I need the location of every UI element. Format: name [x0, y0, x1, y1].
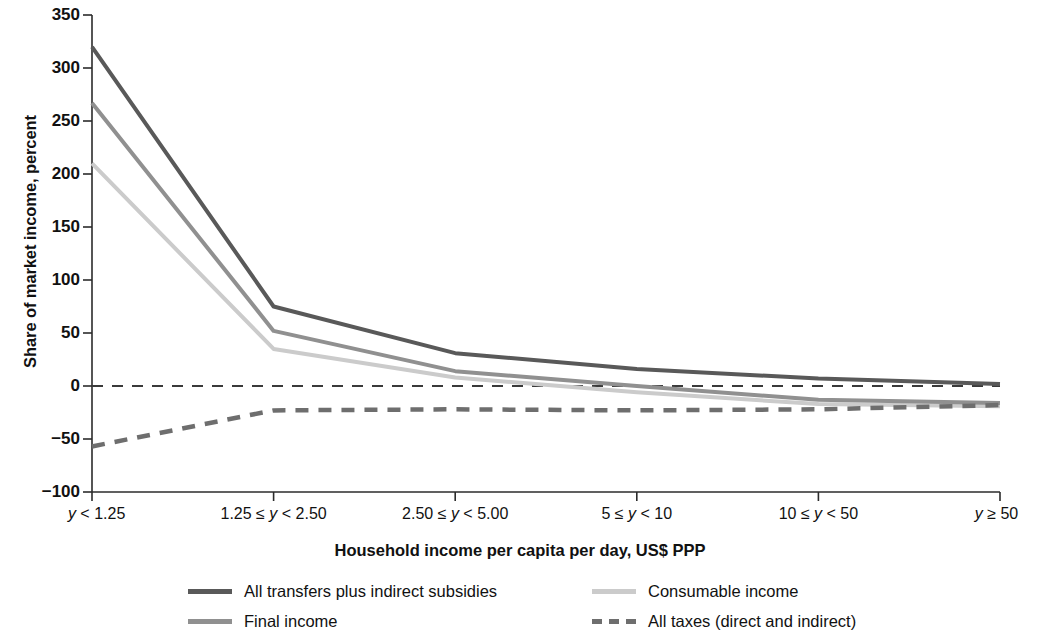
y-tick-label: 350: [18, 6, 80, 23]
x-tick-label: 2.50 ≤ y < 5.00: [402, 505, 508, 523]
y-tick-label: 150: [18, 218, 80, 235]
x-tick-label: 5 ≤ y < 10: [601, 505, 672, 523]
axis-tick-marks: [83, 15, 1000, 501]
legend-item[interactable]: Final income: [188, 612, 338, 631]
y-tick-label: 200: [18, 165, 80, 182]
legend-label: All taxes (direct and indirect): [648, 612, 856, 631]
legend-swatch-solid-line-icon: [188, 619, 232, 624]
chart-legend: All transfers plus indirect subsidiesFin…: [188, 582, 988, 640]
legend-swatch-solid-line-icon: [592, 589, 636, 594]
y-tick-label: 100: [18, 271, 80, 288]
legend-swatch-solid-line-icon: [188, 589, 232, 594]
legend-label: Consumable income: [648, 582, 798, 601]
x-tick-label: 1.25 ≤ y < 2.50: [221, 505, 327, 523]
y-tick-label: 0: [18, 377, 80, 394]
series-line: [92, 47, 1000, 384]
legend-swatch-dashed-line-icon: [592, 619, 636, 624]
y-tick-label: 50: [18, 324, 80, 341]
series-lines: [92, 47, 1000, 447]
x-tick-label: y < 1.25: [68, 505, 125, 523]
series-line: [92, 103, 1000, 403]
series-line: [92, 163, 1000, 406]
y-tick-label: 300: [18, 59, 80, 76]
axis-lines: [92, 15, 1000, 492]
legend-item[interactable]: All transfers plus indirect subsidies: [188, 582, 497, 601]
y-tick-label: −100: [18, 483, 80, 500]
x-tick-label: y ≥ 50: [975, 505, 1018, 523]
legend-item[interactable]: Consumable income: [592, 582, 798, 601]
legend-label: Final income: [244, 612, 338, 631]
y-tick-label: −50: [18, 430, 80, 447]
chart-figure: Share of market income, percent 35030025…: [0, 0, 1040, 640]
x-axis-title: Household income per capita per day, US$…: [0, 541, 1040, 560]
series-line: [92, 405, 1000, 446]
y-tick-label: 250: [18, 112, 80, 129]
legend-label: All transfers plus indirect subsidies: [244, 582, 497, 601]
legend-item[interactable]: All taxes (direct and indirect): [592, 612, 856, 631]
x-tick-label: 10 ≤ y < 50: [779, 505, 859, 523]
